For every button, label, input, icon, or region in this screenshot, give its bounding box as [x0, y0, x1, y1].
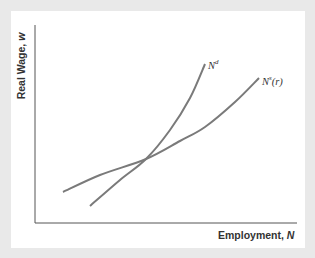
labor-demand-curve [90, 64, 205, 206]
labor-supply-label: Ns(r) [262, 74, 283, 87]
x-axis-label: Employment, N [218, 229, 294, 241]
chart-canvas [0, 0, 315, 258]
y-axis-label: Real Wage, w [14, 31, 28, 101]
labor-demand-label: Nd [208, 58, 219, 71]
labor-supply-curve [63, 78, 259, 192]
